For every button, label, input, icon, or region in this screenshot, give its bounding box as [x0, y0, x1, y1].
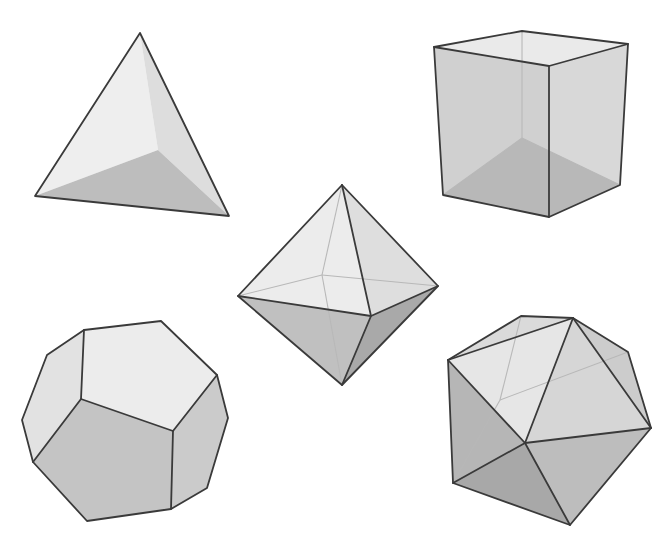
- octahedron: [238, 185, 438, 385]
- dodecahedron: [22, 321, 228, 521]
- platonic-solids-illustration: [0, 0, 670, 552]
- icosahedron: [448, 316, 651, 525]
- cube: [434, 31, 628, 217]
- tetrahedron: [35, 33, 229, 216]
